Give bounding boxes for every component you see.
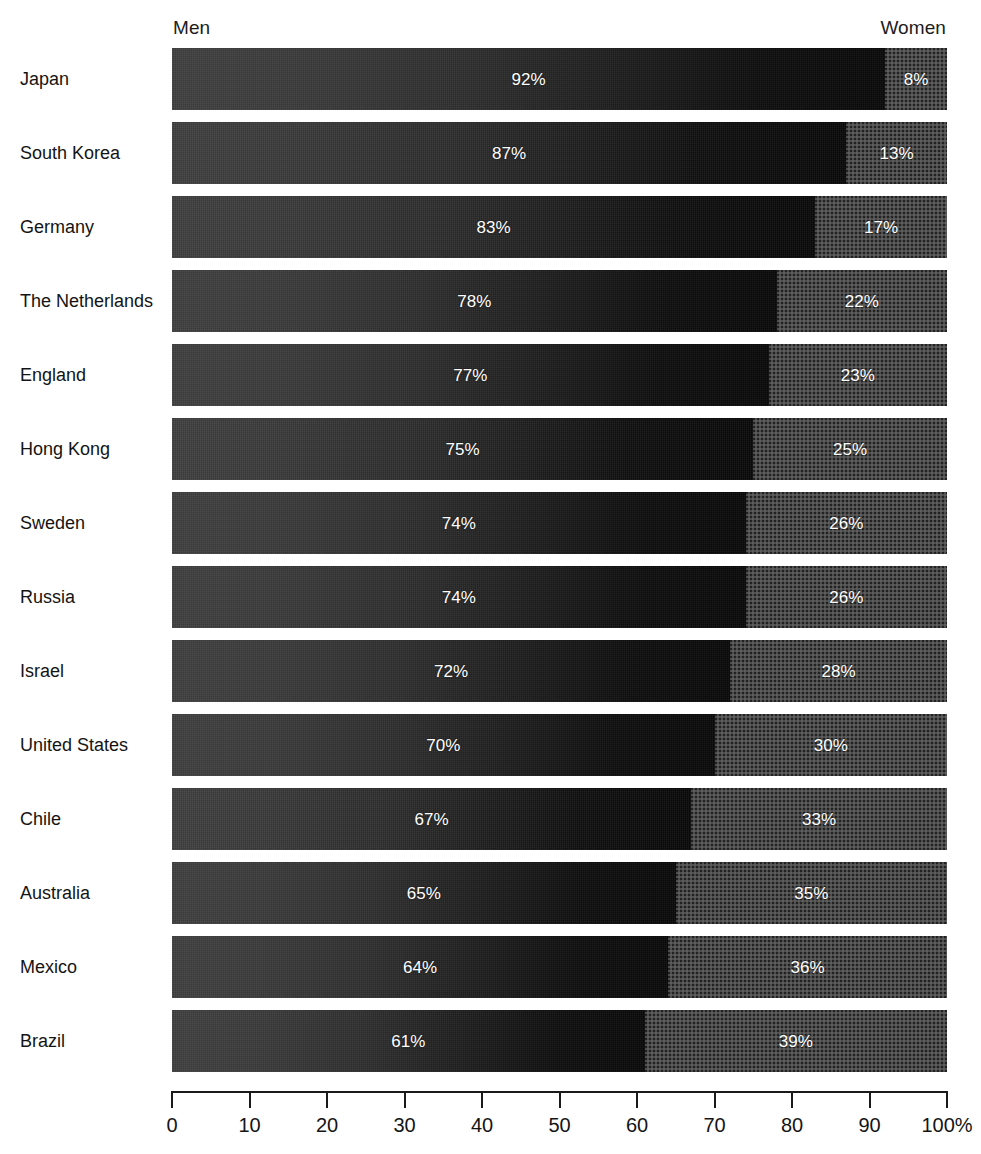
bar-segment-men: 83% — [172, 196, 815, 258]
axis-tick-label: 40 — [471, 1113, 493, 1137]
bar-value-label-men: 70% — [426, 737, 460, 754]
category-label: Chile — [0, 808, 152, 830]
bar-segment-women: 26% — [746, 566, 948, 628]
category-label-text: Australia — [0, 882, 90, 904]
category-label: Sweden — [0, 512, 152, 534]
axis-tick-label: 20 — [316, 1113, 338, 1137]
category-label-text: Israel — [0, 660, 64, 682]
legend-label-men: Men — [173, 16, 210, 40]
bar-segment-men: 74% — [172, 492, 746, 554]
axis-tick-label: 100% — [921, 1113, 972, 1137]
bar-row: 87%13% — [172, 122, 947, 184]
bar-row: 74%26% — [172, 492, 947, 554]
axis-tick-label: 60 — [626, 1113, 648, 1137]
bar-row: 92%8% — [172, 48, 947, 110]
bar-value-label-women: 22% — [845, 293, 879, 310]
category-label: Japan — [0, 68, 152, 90]
bar-segment-women: 23% — [769, 344, 947, 406]
bar-value-label-women: 26% — [829, 515, 863, 532]
bar-segment-men: 65% — [172, 862, 676, 924]
bar-segment-women: 8% — [885, 48, 947, 110]
category-label: England — [0, 364, 152, 386]
axis-tick — [171, 1091, 173, 1108]
bar-row: 75%25% — [172, 418, 947, 480]
bar-value-label-men: 78% — [457, 293, 491, 310]
category-label: Germany — [0, 216, 152, 238]
x-axis: 0102030405060708090100% — [172, 1091, 947, 1151]
category-label-text: Japan — [0, 68, 69, 90]
bar-value-label-men: 75% — [446, 441, 480, 458]
bar-value-label-men: 61% — [391, 1033, 425, 1050]
bar-segment-men: 92% — [172, 48, 885, 110]
bar-value-label-men: 92% — [511, 71, 545, 88]
bar-value-label-men: 72% — [434, 663, 468, 680]
bar-segment-women: 39% — [645, 1010, 947, 1072]
bar-value-label-men: 83% — [477, 219, 511, 236]
bar-value-label-men: 65% — [407, 885, 441, 902]
bar-segment-men: 72% — [172, 640, 730, 702]
bar-segment-men: 74% — [172, 566, 746, 628]
bar-value-label-women: 36% — [790, 959, 824, 976]
category-label: United States — [0, 734, 152, 756]
axis-tick-label: 0 — [166, 1113, 177, 1137]
axis-tick — [326, 1091, 328, 1108]
category-label-text: Brazil — [0, 1030, 65, 1052]
axis-tick — [636, 1091, 638, 1108]
bar-value-label-women: 17% — [864, 219, 898, 236]
legend-label-women: Women — [880, 16, 946, 40]
bar-segment-women: 13% — [846, 122, 947, 184]
bar-segment-men: 77% — [172, 344, 769, 406]
category-label: The Netherlands — [0, 290, 152, 312]
category-label-text: Germany — [0, 216, 94, 238]
bar-segment-men: 87% — [172, 122, 846, 184]
bar-row: 77%23% — [172, 344, 947, 406]
category-label-text: England — [0, 364, 86, 386]
category-label-text: Russia — [0, 586, 75, 608]
bar-segment-women: 17% — [815, 196, 947, 258]
bar-row: 70%30% — [172, 714, 947, 776]
bar-segment-men: 75% — [172, 418, 753, 480]
category-label: Russia — [0, 586, 152, 608]
bar-value-label-women: 28% — [821, 663, 855, 680]
bar-segment-men: 70% — [172, 714, 715, 776]
category-label-text: United States — [0, 734, 128, 756]
bar-segment-men: 67% — [172, 788, 691, 850]
bar-value-label-women: 26% — [829, 589, 863, 606]
bar-value-label-women: 23% — [841, 367, 875, 384]
bar-value-label-women: 39% — [779, 1033, 813, 1050]
bar-row: 61%39% — [172, 1010, 947, 1072]
category-label-text: South Korea — [0, 142, 120, 164]
bar-segment-men: 78% — [172, 270, 777, 332]
axis-tick — [249, 1091, 251, 1108]
axis-tick — [404, 1091, 406, 1108]
bar-value-label-women: 33% — [802, 811, 836, 828]
axis-tick — [481, 1091, 483, 1108]
axis-tick-label: 10 — [238, 1113, 260, 1137]
bar-segment-women: 36% — [668, 936, 947, 998]
bar-value-label-women: 35% — [794, 885, 828, 902]
bar-value-label-men: 64% — [403, 959, 437, 976]
bar-value-label-women: 30% — [814, 737, 848, 754]
bar-row: 67%33% — [172, 788, 947, 850]
category-label: Australia — [0, 882, 152, 904]
axis-tick — [791, 1091, 793, 1108]
category-label: Brazil — [0, 1030, 152, 1052]
axis-tick-label: 90 — [858, 1113, 880, 1137]
bar-segment-men: 64% — [172, 936, 668, 998]
bar-segment-men: 61% — [172, 1010, 645, 1072]
stacked-bar-chart: Men Women 92%8%87%13%83%17%78%22%77%23%7… — [0, 0, 981, 1154]
bar-segment-women: 35% — [676, 862, 947, 924]
bar-value-label-men: 87% — [492, 145, 526, 162]
axis-tick — [946, 1091, 948, 1108]
bar-segment-women: 25% — [753, 418, 947, 480]
bar-segment-women: 26% — [746, 492, 948, 554]
bar-row: 78%22% — [172, 270, 947, 332]
bar-row: 74%26% — [172, 566, 947, 628]
bar-segment-women: 33% — [691, 788, 947, 850]
category-label-text: Sweden — [0, 512, 85, 534]
bar-value-label-men: 77% — [453, 367, 487, 384]
bar-segment-women: 28% — [730, 640, 947, 702]
category-label-text: Hong Kong — [0, 438, 110, 460]
category-label-text: The Netherlands — [0, 290, 153, 312]
category-label-text: Mexico — [0, 956, 77, 978]
